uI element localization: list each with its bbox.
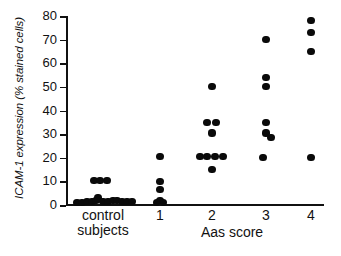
data-point [211,153,218,160]
y-axis-title: ICAM-1 expression (% stained cells) [13,13,25,203]
x-label-line: 4 [307,208,315,223]
data-point [156,178,163,185]
data-point [262,83,269,90]
data-point [208,166,215,173]
y-tick-label: 30 [31,126,57,141]
scatter-chart-figure: ICAM-1 expression (% stained cells) 0102… [0,0,341,256]
data-point [307,48,314,55]
x-tick-label-2: 2 [208,208,216,223]
y-tick-label: 20 [31,150,57,165]
x-tick-label-3: 3 [262,208,270,223]
y-tick-label: 40 [31,103,57,118]
data-point [212,119,219,126]
y-tick-mark [60,158,66,160]
data-point [307,17,314,24]
y-tick-mark [60,111,66,113]
data-point [262,36,269,43]
y-tick-mark [60,205,66,207]
y-tick-label: 80 [31,8,57,23]
x-label-line: control [77,208,128,223]
y-tick-mark [60,16,66,18]
x-label-line: 2 [208,208,216,223]
data-point [128,198,135,205]
data-point [156,186,163,193]
data-point [203,153,210,160]
y-tick-mark [60,134,66,136]
y-tick-label: 10 [31,173,57,188]
y-tick-label: 0 [31,197,57,212]
x-axis-title: Aas score [201,224,263,240]
y-tick-mark [60,63,66,65]
data-point [259,154,266,161]
y-tick-label: 50 [31,79,57,94]
data-point [219,153,226,160]
y-tick-mark [60,40,66,42]
data-point [307,29,314,36]
data-point [208,129,215,136]
data-point [307,154,314,161]
data-point [103,177,110,184]
x-tick-label-control-subjects: controlsubjects [77,208,128,238]
plot-area [66,16,324,205]
y-tick-label: 60 [31,55,57,70]
x-tick-label-4: 4 [307,208,315,223]
x-label-line: 3 [262,208,270,223]
data-point [203,119,210,126]
data-point [208,83,215,90]
x-tick-label-1: 1 [156,208,164,223]
y-tick-label: 70 [31,32,57,47]
data-point [156,153,163,160]
data-point [262,119,269,126]
y-tick-mark [60,181,66,183]
y-tick-mark [60,87,66,89]
data-point [262,74,269,81]
data-point [160,199,167,206]
data-point [267,134,274,141]
x-label-line: 1 [156,208,164,223]
x-label-line: subjects [77,223,128,238]
